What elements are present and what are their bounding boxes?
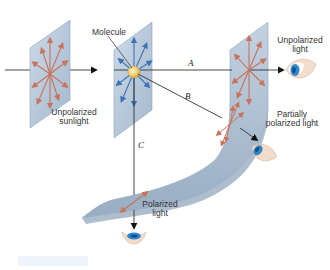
molecule-icon [128,66,140,78]
label-line: light [270,45,330,54]
unpolarized-light-label: Unpolarized light [270,36,330,54]
eye-icon [286,59,316,78]
path-a-label: A [188,58,194,68]
molecule-sheet [108,22,152,138]
eye-icon [122,232,146,244]
faint-caption-area [18,256,88,266]
unpolarized-sunlight-label: Unpolarized sunlight [44,108,104,126]
curved-screen [82,22,268,224]
partially-polarized-label: Partially polarized light [254,110,330,128]
path-b-label: B [185,91,191,101]
polarization-diagram: Molecule Unpolarized sunlight Unpolarize… [0,0,330,270]
polarized-light-label: Polarized light [138,200,182,218]
label-line: polarized light [254,119,330,128]
label-line: light [138,209,182,218]
path-c-label: C [138,140,144,150]
label-line: sunlight [44,117,104,126]
molecule-label: Molecule [92,28,126,37]
